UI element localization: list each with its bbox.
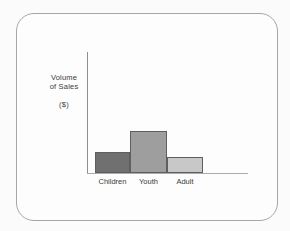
y-axis-label: Volume of Sales ($) <box>37 73 91 109</box>
bar-chart: Volume of Sales ($) ChildrenYouthAdult <box>17 14 277 220</box>
x-tick-label-adult: Adult <box>176 177 193 186</box>
x-axis-line <box>87 173 248 174</box>
bar-children <box>95 152 130 173</box>
slide-frame: Volume of Sales ($) ChildrenYouthAdult <box>16 13 278 221</box>
x-tick-label-children: Children <box>99 177 127 186</box>
y-axis-label-line2: of Sales <box>50 82 79 91</box>
y-axis-label-line1: Volume <box>51 73 77 82</box>
x-tick-label-youth: Youth <box>139 177 158 186</box>
y-axis-unit: ($) <box>37 100 91 109</box>
bar-youth <box>130 131 167 173</box>
y-axis-line <box>87 52 88 173</box>
bar-adult <box>167 157 203 173</box>
